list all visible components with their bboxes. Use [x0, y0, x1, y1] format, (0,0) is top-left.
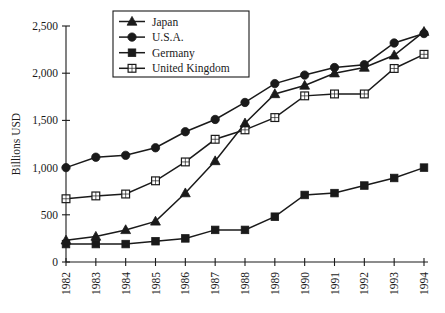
- line-chart-figure: 05001,0001,5002,0002,5001982198319841985…: [0, 0, 445, 313]
- square-marker-icon: [92, 240, 100, 248]
- square-marker-icon: [182, 235, 190, 243]
- y-tick-label: 2,000: [32, 67, 58, 80]
- data-point-marker: [62, 163, 70, 171]
- legend-item-label: Germany: [152, 47, 195, 60]
- data-point-marker: [122, 190, 130, 198]
- y-axis-title: Billions USD: [10, 113, 22, 175]
- legend-item-label: United Kingdom: [152, 62, 230, 75]
- x-tick-label: 1982: [60, 272, 72, 295]
- data-point-marker: [211, 135, 219, 143]
- data-point-marker: [360, 90, 368, 98]
- square-marker-icon: [301, 191, 309, 199]
- data-point-marker: [122, 240, 130, 248]
- y-tick-label: 0: [52, 256, 58, 268]
- data-point-marker: [128, 64, 136, 72]
- circle-marker-icon: [92, 153, 100, 161]
- data-point-marker: [390, 39, 398, 47]
- data-point-marker: [331, 90, 339, 98]
- chart-legend: JapanU.S.A.GermanyUnited Kingdom: [113, 11, 249, 77]
- data-point-marker: [211, 115, 219, 123]
- square-marker-icon: [211, 226, 219, 234]
- circle-marker-icon: [211, 115, 219, 123]
- square-marker-icon: [390, 174, 398, 182]
- data-point-marker: [121, 151, 129, 159]
- x-tick-label: 1992: [358, 272, 370, 295]
- data-point-marker: [331, 189, 339, 197]
- data-point-marker: [241, 98, 249, 106]
- x-tick-label: 1993: [388, 272, 400, 295]
- legend-item-label: Japan: [152, 16, 178, 29]
- data-point-marker: [361, 182, 369, 190]
- chart-canvas: 05001,0001,5002,0002,5001982198319841985…: [0, 0, 445, 313]
- x-tick-label: 1983: [90, 272, 102, 295]
- x-tick-label: 1994: [418, 272, 430, 295]
- data-point-marker: [152, 177, 160, 185]
- circle-marker-icon: [128, 33, 136, 41]
- x-tick-label: 1985: [150, 272, 162, 295]
- triangle-marker-icon: [389, 50, 399, 59]
- data-point-marker: [92, 153, 100, 161]
- data-point-marker: [151, 144, 159, 152]
- circle-marker-icon: [390, 39, 398, 47]
- x-tick-label: 1989: [269, 272, 281, 295]
- data-point-marker: [152, 237, 160, 245]
- square-marker-icon: [128, 49, 136, 57]
- x-tick-label: 1991: [329, 272, 341, 295]
- data-point-marker: [128, 49, 136, 57]
- data-point-marker: [271, 213, 279, 221]
- circle-marker-icon: [300, 71, 308, 79]
- data-point-marker: [181, 128, 189, 136]
- square-marker-icon: [420, 164, 428, 172]
- circle-marker-icon: [151, 144, 159, 152]
- square-marker-icon: [361, 182, 369, 190]
- x-tick-label: 1987: [209, 272, 221, 295]
- data-point-marker: [271, 114, 279, 122]
- x-tick-label: 1990: [299, 272, 311, 295]
- y-tick-label: 2,500: [32, 20, 58, 33]
- data-point-marker: [300, 71, 308, 79]
- data-point-marker: [390, 174, 398, 182]
- data-point-marker: [92, 192, 100, 200]
- circle-marker-icon: [181, 128, 189, 136]
- data-point-marker: [301, 191, 309, 199]
- circle-marker-icon: [62, 163, 70, 171]
- square-marker-icon: [271, 213, 279, 221]
- data-point-marker: [271, 79, 279, 87]
- circle-marker-icon: [271, 79, 279, 87]
- data-point-marker: [420, 164, 428, 172]
- data-point-marker: [92, 240, 100, 248]
- x-tick-label: 1988: [239, 272, 251, 295]
- square-marker-icon: [331, 189, 339, 197]
- data-point-marker: [182, 235, 190, 243]
- data-point-marker: [181, 158, 189, 166]
- x-tick-label: 1984: [120, 272, 132, 295]
- data-point-marker: [301, 92, 309, 100]
- y-tick-label: 1,000: [32, 162, 58, 175]
- circle-marker-icon: [121, 151, 129, 159]
- data-point-marker: [389, 50, 399, 59]
- y-tick-label: 500: [41, 209, 59, 221]
- data-point-marker: [390, 65, 398, 73]
- circle-marker-icon: [241, 98, 249, 106]
- square-marker-icon: [122, 240, 130, 248]
- square-marker-icon: [241, 226, 249, 234]
- y-tick-label: 1,500: [32, 114, 58, 127]
- x-tick-label: 1986: [179, 272, 191, 295]
- legend-item-label: U.S.A.: [152, 31, 184, 43]
- series-germany: [62, 164, 428, 248]
- data-point-marker: [420, 50, 428, 58]
- square-marker-icon: [152, 237, 160, 245]
- data-point-marker: [241, 226, 249, 234]
- data-point-marker: [128, 33, 136, 41]
- data-point-marker: [211, 226, 219, 234]
- data-point-marker: [62, 195, 70, 203]
